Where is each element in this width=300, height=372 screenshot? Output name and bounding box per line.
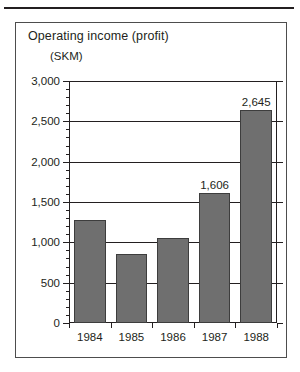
y-axis-minor-tick <box>66 210 70 211</box>
y-axis-tick-right <box>277 283 283 284</box>
y-axis-minor-tick <box>66 105 70 106</box>
y-axis-minor-tick <box>66 291 70 292</box>
y-axis-tick <box>63 81 69 82</box>
y-axis-minor-tick <box>66 146 70 147</box>
y-axis-minor-tick <box>66 129 70 130</box>
page-top-rule <box>4 7 294 9</box>
y-axis-tick-label: 2,000 <box>31 156 60 168</box>
y-axis-minor-tick <box>66 275 70 276</box>
y-axis-minor-tick <box>66 178 70 179</box>
x-axis-tick-label: 1984 <box>77 331 103 343</box>
y-axis-tick-right <box>277 81 283 82</box>
y-axis-minor-tick <box>66 267 70 268</box>
y-axis-minor-tick <box>66 218 70 219</box>
y-axis-tick-right <box>277 202 283 203</box>
y-axis-minor-tick <box>66 113 70 114</box>
y-axis-minor-tick <box>66 315 70 316</box>
y-axis-tick-label: 0 <box>54 317 60 329</box>
bar-value-label: 2,645 <box>242 96 271 108</box>
x-axis-tick-label: 1986 <box>160 331 186 343</box>
y-axis-tick-label: 1,500 <box>31 196 60 208</box>
y-axis-minor-tick <box>66 250 70 251</box>
y-axis-tick-label: 1,000 <box>31 236 60 248</box>
bar[interactable] <box>116 254 148 323</box>
bar-value-label: 1,606 <box>200 179 229 191</box>
y-axis-tick <box>63 283 69 284</box>
x-axis-tick-label: 1987 <box>202 331 228 343</box>
y-axis-tick-label: 2,500 <box>31 115 60 127</box>
y-axis-tick-label: 500 <box>41 277 60 289</box>
x-axis-tick <box>152 323 153 328</box>
y-axis-minor-tick <box>66 194 70 195</box>
y-axis-minor-tick <box>66 234 70 235</box>
y-axis-unit-label: (SKM) <box>50 50 83 62</box>
bar[interactable]: 2,645 <box>240 110 272 323</box>
y-axis-minor-tick <box>66 97 70 98</box>
y-axis-minor-tick <box>66 307 70 308</box>
y-axis-minor-tick <box>66 170 70 171</box>
bar[interactable] <box>157 238 189 323</box>
x-axis-tick <box>277 323 278 328</box>
x-axis-tick <box>235 323 236 328</box>
y-axis-minor-tick <box>66 89 70 90</box>
x-axis-tick <box>111 323 112 328</box>
y-axis-minor-tick <box>66 258 70 259</box>
y-axis-tick <box>63 121 69 122</box>
y-axis-minor-tick <box>66 186 70 187</box>
x-axis-tick-label: 1988 <box>243 331 269 343</box>
bar[interactable] <box>74 220 106 323</box>
y-axis-minor-tick <box>66 154 70 155</box>
chart-figure-box: Operating income (profit) (SKM) 05001,00… <box>15 22 287 358</box>
x-axis-tick <box>69 323 70 328</box>
y-axis-tick-right <box>277 162 283 163</box>
bar[interactable]: 1,606 <box>199 193 231 323</box>
x-axis-tick <box>194 323 195 328</box>
y-axis-tick-right <box>277 121 283 122</box>
y-axis-minor-tick <box>66 137 70 138</box>
y-axis-tick <box>63 162 69 163</box>
y-axis-tick <box>63 202 69 203</box>
chart-title: Operating income (profit) <box>28 29 169 43</box>
y-axis-tick-label: 3,000 <box>31 75 60 87</box>
y-axis-tick <box>63 242 69 243</box>
y-axis-minor-tick <box>66 226 70 227</box>
x-axis-tick-label: 1985 <box>119 331 145 343</box>
y-axis-minor-tick <box>66 299 70 300</box>
y-axis-tick-right <box>277 242 283 243</box>
plot-area: 05001,0001,5002,0002,5003,000 1,6062,645… <box>69 81 277 323</box>
